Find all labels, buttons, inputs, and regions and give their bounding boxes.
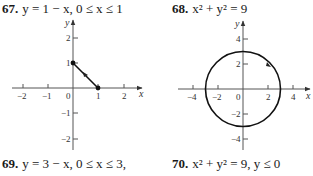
graph-67: −2 −1 0 1 2 x 2 1 −1 −2 y (12, 17, 144, 150)
y-tick-label: 1 (66, 58, 71, 68)
x-axis-label: x (305, 90, 311, 101)
x-tick-label: 2 (266, 92, 271, 102)
graph-68: −4 −2 0 2 4 x 4 2 −2 −4 y (178, 18, 311, 150)
x-tick-label: −1 (42, 91, 52, 101)
x-tick-label: 2 (122, 91, 127, 101)
y-tick-label: −2 (231, 109, 241, 119)
x-tick-label: −4 (187, 92, 197, 102)
y-tick-label: 4 (236, 34, 241, 44)
y-tick-label: −1 (61, 108, 71, 118)
graphs: −2 −1 0 1 2 x 2 1 −1 −2 y −4 −2 0 2 4 (0, 0, 313, 176)
y-axis-label: y (234, 18, 240, 29)
x-tick-label: 0 (236, 92, 241, 102)
x-tick-label: −2 (212, 92, 222, 102)
x-tick-label: 4 (291, 92, 296, 102)
x-tick-label: 1 (96, 91, 101, 101)
y-tick-label: 2 (236, 59, 241, 69)
y-axis-label: y (64, 17, 70, 28)
y-tick-label: 2 (66, 33, 71, 43)
x-axis-label: x (138, 88, 144, 99)
y-tick-label: −4 (231, 134, 241, 144)
y-tick-label: −2 (61, 134, 71, 144)
x-tick-label: −2 (17, 91, 27, 101)
end-point (96, 86, 101, 91)
x-tick-label: 0 (66, 91, 71, 101)
start-point (71, 61, 76, 66)
